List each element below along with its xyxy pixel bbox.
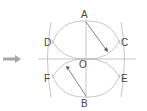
label-o: O bbox=[79, 59, 87, 70]
right-arc bbox=[121, 22, 125, 97]
diagram-canvas: A B C D E F O bbox=[0, 0, 147, 111]
radius-arrow-b bbox=[66, 66, 86, 96]
label-c: C bbox=[121, 37, 128, 48]
label-a: A bbox=[81, 9, 88, 20]
label-f: F bbox=[44, 73, 50, 84]
right-arrow-icon bbox=[3, 55, 21, 63]
construction-diagram: A B C D E F O bbox=[0, 0, 147, 111]
radius-arrow-a bbox=[86, 22, 108, 52]
label-d: D bbox=[44, 37, 51, 48]
label-e: E bbox=[121, 73, 128, 84]
label-b: B bbox=[81, 98, 88, 109]
left-arc bbox=[48, 22, 52, 97]
